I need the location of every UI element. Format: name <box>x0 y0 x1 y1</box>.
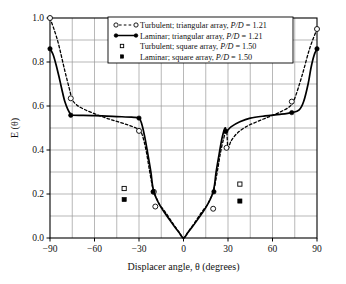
legend-label-italic: P/D <box>225 32 239 41</box>
x-tick-label: −90 <box>43 244 58 254</box>
y-tick-label: 0.8 <box>32 57 44 67</box>
x-tick-label: −30 <box>132 244 147 254</box>
marker-open-circle <box>315 27 320 32</box>
marker-filled-circle <box>69 113 73 117</box>
marker-open-circle <box>68 96 73 101</box>
x-tick-label: −60 <box>87 244 102 254</box>
x-axis-title: Displacer angle, θ (degrees) <box>128 261 240 273</box>
legend-item-3[interactable]: Laminar; square array, P/D = 1.50 <box>120 53 252 62</box>
marker-filled-square <box>120 55 123 58</box>
legend-label-tail: = 1.21 <box>244 21 267 30</box>
x-tick-label: 60 <box>268 244 278 254</box>
marker-filled-circle <box>290 110 294 114</box>
legend-label-tail: = 1.21 <box>240 32 263 41</box>
marker-filled-square <box>122 197 126 201</box>
x-tick-label: 30 <box>223 244 233 254</box>
marker-filled-circle <box>212 190 216 194</box>
chart-canvas: −90−60−3003060900.00.20.40.60.81.0 Displ… <box>0 0 346 284</box>
marker-open-square <box>238 182 242 186</box>
marker-filled-square <box>238 199 242 203</box>
legend-label: Laminar; square array, P/D = 1.50 <box>140 53 252 62</box>
marker-filled-circle <box>315 47 319 51</box>
marker-filled-circle <box>134 34 138 38</box>
legend-label-plain: Laminar; square array, <box>140 53 216 62</box>
y-tick-label: 0.6 <box>32 101 44 111</box>
y-axis-title: E (θ) <box>9 118 21 138</box>
marker-open-circle <box>48 16 53 21</box>
legend-label-tail: = 1.50 <box>233 42 256 51</box>
legend-label-plain: Laminar; triangular array, <box>140 32 226 41</box>
x-tick-label: 90 <box>312 244 322 254</box>
marker-open-circle <box>289 99 294 104</box>
y-tick-label: 0.2 <box>32 189 44 199</box>
legend-label: Laminar; triangular array, P/D = 1.21 <box>140 32 263 41</box>
y-tick-label: 0.4 <box>32 145 44 155</box>
marker-open-circle <box>153 204 158 209</box>
legend-item-2[interactable]: Turbulent; square array, P/D = 1.50 <box>120 42 256 51</box>
legend-label-plain: Turbulent; square array, <box>140 42 220 51</box>
y-tick-label: 1.0 <box>32 13 44 23</box>
marker-filled-circle <box>224 129 228 133</box>
marker-open-circle <box>134 23 138 27</box>
legend-label-tail: = 1.50 <box>229 53 252 62</box>
marker-filled-circle <box>48 47 52 51</box>
legend-label-plain: Turbulent; triangular array, <box>140 21 231 30</box>
marker-filled-circle <box>137 116 141 120</box>
marker-open-circle <box>211 206 216 211</box>
marker-open-square <box>122 186 126 190</box>
chart-figure: −90−60−3003060900.00.20.40.60.81.0 Displ… <box>0 0 346 284</box>
chart-legend[interactable]: Turbulent; triangular array, P/D = 1.21L… <box>108 17 293 63</box>
legend-label: Turbulent; square array, P/D = 1.50 <box>140 42 256 51</box>
legend-label-italic: P/D <box>219 42 233 51</box>
legend-label-italic: P/D <box>230 21 244 30</box>
legend-label-italic: P/D <box>215 53 229 62</box>
x-tick-label: 0 <box>181 244 186 254</box>
y-tick-label: 0.0 <box>32 233 44 243</box>
marker-open-circle <box>114 23 118 27</box>
marker-filled-circle <box>114 34 118 38</box>
marker-filled-circle <box>151 190 155 194</box>
marker-open-circle <box>137 128 142 133</box>
marker-open-circle <box>224 145 229 150</box>
marker-open-square <box>120 44 123 47</box>
legend-label: Turbulent; triangular array, P/D = 1.21 <box>140 21 267 30</box>
